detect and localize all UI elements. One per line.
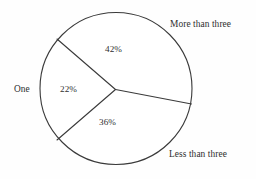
- slice-value-less-than-three: 36%: [99, 118, 116, 127]
- slice-value-one: 22%: [60, 85, 77, 94]
- slice-label-less-than-three: Less than three: [169, 150, 227, 159]
- pie-chart-figure: More than three Less than three One 42% …: [0, 0, 256, 179]
- slice-label-more-than-three: More than three: [170, 20, 231, 29]
- slice-value-more-than-three: 42%: [105, 45, 122, 54]
- slice-label-one: One: [14, 85, 30, 94]
